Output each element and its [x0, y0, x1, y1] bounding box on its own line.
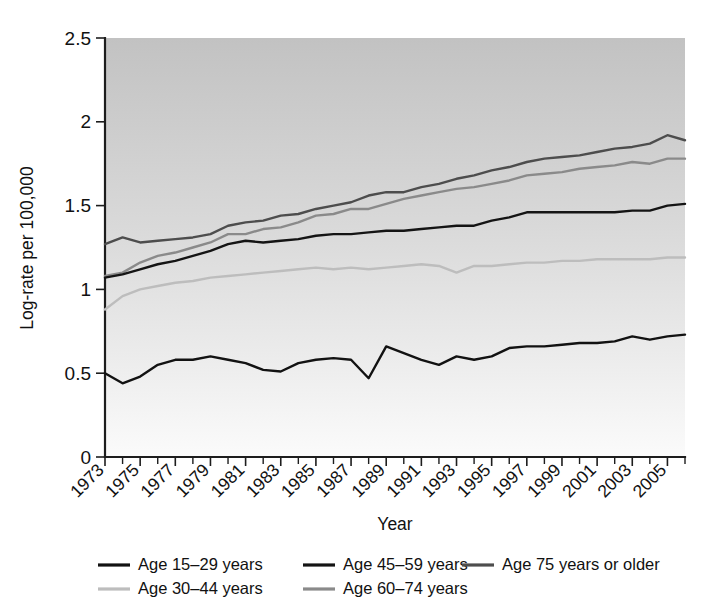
legend-label: Age 60–74 years	[343, 579, 468, 597]
x-tick-label: 2003	[593, 460, 635, 502]
x-tick-label: 1973	[66, 460, 108, 502]
x-tick-label: 1993	[418, 460, 460, 502]
chart-legend: Age 15–29 yearsAge 45–59 yearsAge 75 yea…	[98, 555, 660, 597]
x-tick-label: 1999	[523, 460, 565, 502]
y-tick-label: 0.5	[65, 363, 91, 384]
x-tick-label: 1979	[172, 460, 214, 502]
legend-label: Age 30–44 years	[138, 579, 263, 597]
x-tick-label: 1987	[312, 460, 354, 502]
chart-figure: 00.511.522.5 197319751977197919811983198…	[0, 0, 705, 615]
x-axis-title: Year	[377, 514, 413, 534]
x-tick-label: 2001	[558, 460, 600, 502]
y-axis-ticks: 00.511.522.5	[65, 28, 105, 468]
line-chart-svg: 00.511.522.5 197319751977197919811983198…	[0, 0, 705, 615]
y-axis-title: Log-rate per 100,000	[17, 166, 37, 330]
legend-label: Age 75 years or older	[502, 555, 660, 573]
chart-page: 00.511.522.5 197319751977197919811983198…	[0, 0, 705, 615]
legend-label: Age 15–29 years	[138, 555, 263, 573]
x-tick-label: 1977	[136, 460, 178, 502]
x-tick-label: 1997	[488, 460, 530, 502]
x-tick-label: 1989	[347, 460, 389, 502]
y-tick-label: 2.5	[65, 28, 91, 49]
x-tick-label: 1983	[242, 460, 284, 502]
y-tick-label: 2	[80, 111, 91, 132]
y-tick-label: 1	[80, 279, 91, 300]
x-tick-label: 1981	[207, 460, 249, 502]
x-tick-label: 1995	[453, 460, 495, 502]
x-tick-label: 1975	[101, 460, 143, 502]
y-tick-label: 1.5	[65, 195, 91, 216]
x-tick-label: 1985	[277, 460, 319, 502]
legend-label: Age 45–59 years	[343, 555, 468, 573]
x-axis-ticks: 1973197519771979198119831985198719891991…	[66, 457, 685, 501]
x-tick-label: 1991	[383, 460, 425, 502]
x-tick-label: 2005	[629, 460, 671, 502]
